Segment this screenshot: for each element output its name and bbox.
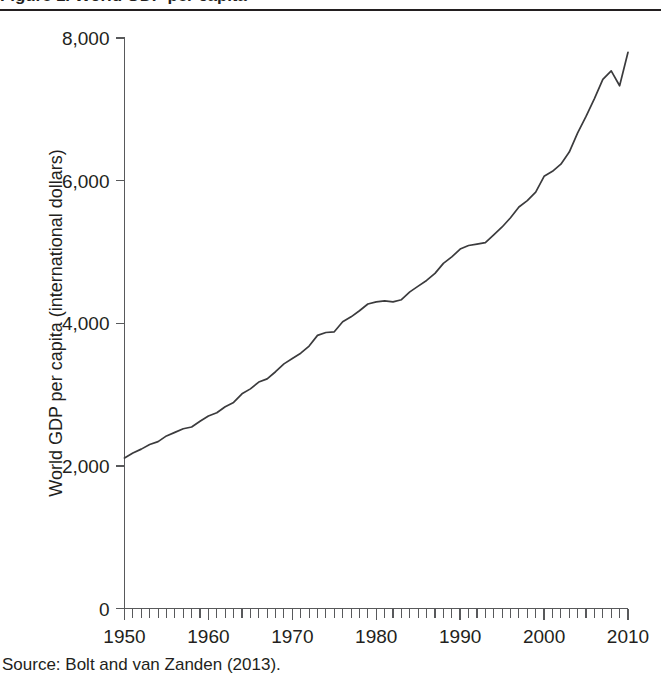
x-tick-label: 1950 <box>103 626 145 647</box>
source-note: Source: Bolt and van Zanden (2013). <box>2 655 281 675</box>
x-tick-label: 2000 <box>523 626 565 647</box>
y-tick-label: 0 <box>99 599 110 620</box>
y-tick-label: 2,000 <box>62 456 110 477</box>
x-tick-label: 1960 <box>187 626 229 647</box>
axes-group <box>125 38 629 609</box>
y-tick-label: 6,000 <box>62 171 110 192</box>
y-tick-label: 8,000 <box>62 28 110 49</box>
y-tick-label: 4,000 <box>62 313 110 334</box>
x-axis-tick-labels: 1950196019701980199020002010 <box>103 626 649 647</box>
data-series-line <box>125 52 629 458</box>
figure-container: Figure 1. World GDP per capita 02,0004,0… <box>0 0 661 683</box>
chart-plot: 02,0004,0006,0008,000 195019601970198019… <box>0 0 661 650</box>
y-axis-tick-labels: 02,0004,0006,0008,000 <box>62 28 110 620</box>
x-tick-label: 1970 <box>271 626 313 647</box>
y-axis-ticks <box>116 38 125 609</box>
x-tick-label: 1990 <box>439 626 481 647</box>
x-tick-label: 2010 <box>607 626 649 647</box>
x-tick-label: 1980 <box>355 626 397 647</box>
y-axis-title: World GDP per capita (international doll… <box>46 149 66 497</box>
